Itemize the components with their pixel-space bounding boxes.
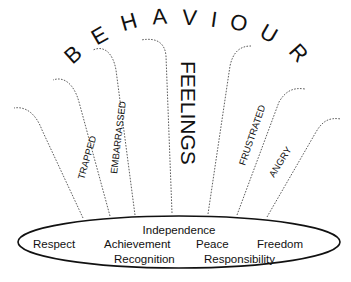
arc-letter-a: A [151, 4, 168, 30]
stem-4 [141, 39, 172, 213]
feelings-labels: TRAPPED EMBARRASSED FRUSTRATED ANGRY FEE… [75, 61, 294, 181]
feeling-trapped: TRAPPED [75, 134, 98, 180]
need-respect: Respect [33, 238, 76, 250]
behaviour-arc-title: B E H A V I O U R [59, 4, 313, 69]
arc-letter-h: H [118, 8, 140, 36]
need-peace: Peace [196, 238, 229, 250]
need-recognition: Recognition [114, 253, 175, 265]
stem-5 [208, 46, 251, 214]
arc-letter-r: R [284, 39, 313, 68]
need-freedom: Freedom [257, 238, 303, 250]
arc-letter-e: E [87, 21, 112, 50]
stem-2 [53, 79, 110, 216]
arc-letter-v: V [181, 5, 198, 31]
need-achievement: Achievement [104, 238, 171, 250]
feeling-angry: ANGRY [266, 144, 293, 179]
need-independence: Independence [143, 224, 216, 236]
stem-1 [14, 108, 83, 218]
arc-letter-o: O [227, 9, 250, 37]
arc-letter-b: B [59, 40, 87, 68]
arc-letter-u: U [256, 19, 282, 49]
feeling-frustrated: FRUSTRATED [236, 103, 267, 166]
arc-letter-i: I [209, 7, 219, 33]
need-responsibility: Responsibility [204, 253, 275, 265]
behaviour-feelings-needs-diagram: B E H A V I O U R TRAPPED EMBARRASSED FR… [0, 0, 351, 282]
feelings-center-label: FEELINGS [177, 61, 200, 165]
needs-ellipse: Independence Respect Achievement Peace F… [18, 216, 340, 268]
